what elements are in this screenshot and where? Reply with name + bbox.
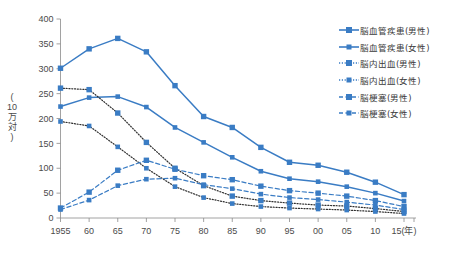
- series-marker: [144, 177, 149, 182]
- series-marker: [230, 155, 235, 160]
- series-marker: [58, 207, 63, 212]
- y-axis-label-paren-close: ): [2, 132, 22, 142]
- series-marker: [144, 166, 149, 171]
- series-marker: [315, 190, 320, 195]
- series-marker: [315, 163, 320, 168]
- legend-symbol-solid-line: [338, 24, 360, 36]
- y-tick-label: 300: [38, 64, 53, 74]
- series-marker: [287, 160, 292, 165]
- y-tick-label: 100: [38, 163, 53, 173]
- series-marker: [373, 209, 378, 214]
- series-marker: [144, 140, 149, 145]
- x-tick-label: 10: [370, 226, 380, 236]
- chart-container: 0501001502002503003504001955606570758085…: [0, 0, 449, 254]
- series-marker: [402, 211, 407, 216]
- y-tick-label: 200: [38, 114, 53, 124]
- series-marker: [344, 200, 349, 205]
- series-marker: [115, 183, 120, 188]
- x-tick-label: 75: [170, 226, 180, 236]
- legend-item-ich-female[interactable]: 脳内出血(女性): [338, 72, 449, 89]
- x-tick-label: 60: [84, 226, 94, 236]
- series-marker: [201, 195, 206, 200]
- series-marker: [316, 207, 321, 212]
- legend-item-ich-male[interactable]: 脳内出血(男性): [338, 55, 449, 72]
- series-marker: [173, 184, 178, 189]
- series-marker: [87, 198, 92, 203]
- x-tick-label: 05: [342, 226, 352, 236]
- series-marker: [316, 197, 321, 202]
- series-marker: [172, 167, 177, 172]
- series-marker: [259, 169, 264, 174]
- series-marker: [344, 184, 349, 189]
- legend-label: 脳血管疾患(男性): [360, 24, 430, 36]
- series-line: [61, 121, 405, 213]
- series-marker: [173, 125, 178, 130]
- series-marker: [287, 206, 292, 211]
- series-marker: [115, 94, 120, 99]
- legend-label: 脳内出血(女性): [360, 74, 421, 86]
- series-marker: [58, 104, 63, 109]
- x-tick-label: 85: [227, 226, 237, 236]
- series-marker: [402, 207, 407, 212]
- series-marker: [201, 114, 206, 119]
- legend-symbol-solid-line: [338, 41, 360, 53]
- y-tick-label: 400: [38, 14, 53, 24]
- series-marker: [259, 204, 264, 209]
- series-marker: [258, 198, 263, 203]
- series-marker: [201, 173, 206, 178]
- series-marker: [144, 105, 149, 110]
- legend-item-infarct-male[interactable]: 脳梗塞(男性): [338, 88, 449, 105]
- legend-label: 脳血管疾患(女性): [360, 41, 430, 53]
- series-marker: [230, 125, 235, 130]
- series-marker: [58, 85, 63, 90]
- chart-legend: 脳血管疾患(男性) 脳血管疾患(女性) 脳内出血(男性) 脳内出血(女性): [338, 22, 449, 122]
- y-tick-label: 250: [38, 89, 53, 99]
- series-marker: [86, 189, 91, 194]
- series-marker: [144, 49, 149, 54]
- legend-item-cvd-female[interactable]: 脳血管疾患(女性): [338, 39, 449, 56]
- x-tick-label: 90: [256, 226, 266, 236]
- series-marker: [115, 110, 120, 115]
- legend-item-cvd-male[interactable]: 脳血管疾患(男性): [338, 22, 449, 39]
- series-marker: [287, 195, 292, 200]
- series-marker: [287, 176, 292, 181]
- x-tick-label: 80: [199, 226, 209, 236]
- series-marker: [58, 119, 63, 124]
- series-marker: [115, 145, 120, 150]
- legend-symbol-dashed-line: [338, 107, 360, 119]
- legend-label: 脳内出血(男性): [360, 57, 421, 69]
- x-tick-label: 95: [284, 226, 294, 236]
- series-marker: [201, 140, 206, 145]
- series-marker: [230, 201, 235, 206]
- series-marker: [316, 179, 321, 184]
- series-marker: [87, 124, 92, 129]
- series-marker: [115, 168, 120, 173]
- legend-symbol-dashed-line: [338, 91, 360, 103]
- y-axis-label: ( 10 万 対 ): [2, 92, 22, 142]
- y-tick-label: 150: [38, 139, 53, 149]
- series-marker: [373, 191, 378, 196]
- series-marker: [115, 36, 120, 41]
- series-marker: [144, 158, 149, 163]
- y-tick-label: 50: [43, 188, 53, 198]
- x-tick-label: 70: [141, 226, 151, 236]
- legend-label: 脳梗塞(女性): [360, 107, 412, 119]
- series-marker: [373, 203, 378, 208]
- series-marker: [373, 179, 378, 184]
- series-marker: [86, 46, 91, 51]
- x-tick-label: 15(年): [391, 225, 416, 236]
- series-marker: [373, 198, 378, 203]
- series-marker: [401, 192, 406, 197]
- series-marker: [344, 208, 349, 213]
- series-marker: [344, 193, 349, 198]
- series-marker: [58, 66, 63, 71]
- series-marker: [287, 188, 292, 193]
- series-marker: [172, 83, 177, 88]
- x-tick-label: 00: [313, 226, 323, 236]
- y-tick-label: 0: [48, 213, 53, 223]
- series-marker: [87, 95, 92, 100]
- legend-item-infarct-female[interactable]: 脳梗塞(女性): [338, 105, 449, 122]
- y-axis-label-tai: 対: [2, 122, 22, 132]
- legend-symbol-dotted-line: [338, 74, 360, 86]
- x-axis-ticks: 1955606570758085909500051015(年): [50, 218, 416, 236]
